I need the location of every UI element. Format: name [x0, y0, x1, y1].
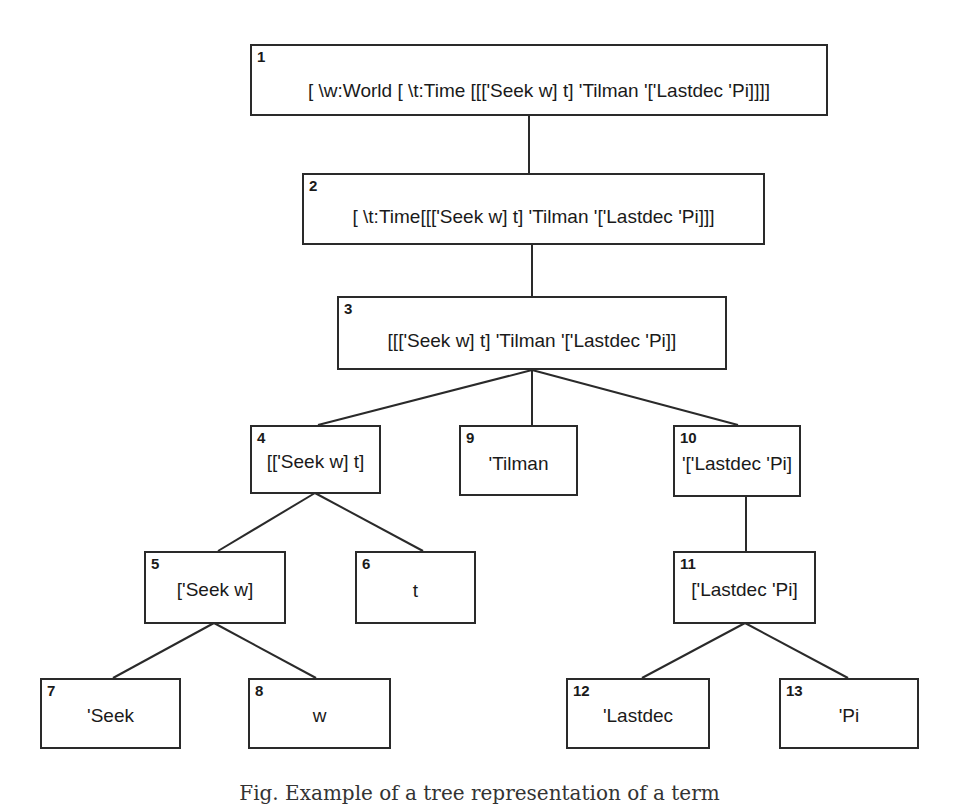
tree-node-12: 12 'Lastdec [566, 678, 710, 749]
node-expression: [ \t:Time[[['Seek w] t] 'Tilman '['Lastd… [304, 206, 763, 228]
node-expression: [['Seek w] t] [252, 451, 379, 473]
node-number: 13 [786, 683, 803, 699]
node-number: 12 [573, 683, 590, 699]
edge-3-4 [318, 370, 532, 425]
tree-node-2: 2 [ \t:Time[[['Seek w] t] 'Tilman '['Las… [302, 173, 765, 245]
node-expression: '['Lastdec 'Pi] [675, 453, 799, 475]
tree-node-13: 13 'Pi [779, 678, 919, 749]
node-number: 5 [151, 556, 159, 572]
edge-5-8 [214, 623, 316, 678]
node-expression: 'Pi [781, 705, 917, 727]
node-number: 7 [47, 683, 55, 699]
tree-node-3: 3 [[['Seek w] t] 'Tilman '['Lastdec 'Pi]… [337, 296, 727, 370]
node-number: 8 [255, 683, 263, 699]
node-expression: 'Lastdec [568, 705, 708, 727]
tree-node-11: 11 ['Lastdec 'Pi] [673, 551, 816, 624]
figure-caption: Fig. Example of a tree representation of… [0, 781, 959, 805]
node-number: 4 [257, 430, 265, 446]
node-number: 11 [680, 556, 696, 572]
node-expression: [ \w:World [ \t:Time [[['Seek w] t] 'Til… [252, 80, 826, 102]
tree-node-6: 6 t [355, 551, 476, 624]
edge-11-13 [745, 623, 848, 678]
tree-node-1: 1 [ \w:World [ \t:Time [[['Seek w] t] 'T… [250, 44, 828, 116]
edge-5-7 [113, 623, 214, 678]
node-number: 1 [257, 49, 265, 65]
node-expression: t [357, 580, 474, 602]
node-expression: ['Lastdec 'Pi] [675, 579, 814, 601]
tree-node-9: 9 'Tilman [459, 425, 578, 496]
node-expression: [[['Seek w] t] 'Tilman '['Lastdec 'Pi]] [339, 330, 725, 352]
node-expression: 'Tilman [461, 453, 576, 475]
edge-4-5 [218, 493, 315, 551]
node-number: 6 [362, 556, 370, 572]
node-number: 3 [344, 301, 352, 317]
edge-11-12 [642, 623, 745, 678]
tree-node-7: 7 'Seek [40, 678, 181, 749]
edge-3-10 [532, 370, 738, 425]
tree-node-4: 4 [['Seek w] t] [250, 425, 381, 494]
node-number: 2 [309, 178, 317, 194]
node-number: 10 [680, 430, 697, 446]
node-number: 9 [466, 430, 474, 446]
edge-4-6 [315, 493, 423, 551]
node-expression: 'Seek [42, 705, 179, 727]
tree-node-10: 10 '['Lastdec 'Pi] [673, 425, 801, 497]
node-expression: ['Seek w] [146, 579, 284, 601]
tree-node-8: 8 w [248, 678, 391, 749]
node-expression: w [250, 705, 389, 727]
tree-node-5: 5 ['Seek w] [144, 551, 286, 624]
